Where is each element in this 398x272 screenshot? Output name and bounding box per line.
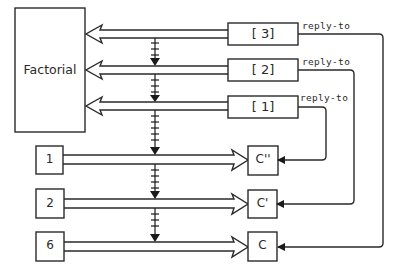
value-label-6: 6 (36, 238, 64, 252)
reply-to-label-3: reply-to (302, 20, 350, 31)
hollow-arrow-msg-2 (86, 61, 228, 79)
reply-to-label-2: reply-to (302, 56, 350, 67)
value-label-1: 1 (36, 152, 63, 166)
message-label-3: [ 3] (228, 26, 298, 41)
factorial-label: Factorial (15, 62, 85, 77)
reply-line-2 (277, 70, 354, 204)
message-label-1: [ 1] (228, 99, 298, 114)
reply-to-label-1: reply-to (300, 92, 348, 103)
continuation-label-c0: C (248, 238, 277, 252)
hollow-arrow-msg-1 (86, 97, 228, 115)
message-label-2: [ 2] (228, 62, 298, 77)
continuation-label-c2: C'' (248, 152, 278, 166)
continuation-label-c1: C' (248, 196, 277, 210)
diagram-canvas (0, 0, 398, 272)
value-label-2: 2 (36, 196, 64, 210)
hollow-arrow-msg-3 (86, 25, 228, 43)
